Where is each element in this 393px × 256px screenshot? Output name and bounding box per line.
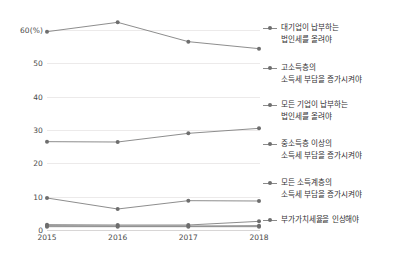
legend-label: 대기업이 납부하는	[281, 22, 339, 34]
data-point	[116, 140, 120, 144]
data-point	[45, 30, 49, 34]
legend-label-line2: 소득세 부담을 증가시켜야	[281, 74, 393, 86]
data-point	[45, 140, 49, 144]
legend-label-line2: 법인세를 올려야	[281, 111, 393, 123]
data-point	[257, 126, 261, 130]
data-point	[186, 40, 190, 44]
data-point	[186, 225, 190, 229]
series-line	[47, 22, 259, 48]
y-tick-label-60: 60(%)	[0, 26, 43, 35]
legend-marker-icon	[263, 216, 277, 225]
x-tick-label-2016: 2016	[108, 233, 127, 242]
x-axis-line	[47, 230, 260, 231]
series-4	[45, 224, 261, 228]
legend-item-2[interactable]: 모든 기업이 납부하는법인세를 올려야	[263, 99, 393, 123]
data-point	[116, 225, 120, 229]
legend-label: 고소득층의	[281, 62, 316, 74]
plot-area	[47, 30, 260, 230]
line-chart: 0102030405060(%) 2015201620172018 대기업이 납…	[0, 0, 393, 256]
y-tick-label-40: 40	[0, 92, 43, 101]
data-point	[45, 225, 49, 229]
legend-marker-icon	[263, 179, 277, 188]
legend-label: 중소득층 이상의	[281, 138, 332, 150]
legend-label: 모든 기업이 납부하는	[281, 99, 348, 111]
y-axis-tick-labels: 0102030405060(%)	[0, 30, 43, 230]
x-tick-label-2015: 2015	[37, 233, 56, 242]
data-point	[116, 207, 120, 211]
data-point	[186, 131, 190, 135]
legend-marker-icon	[263, 24, 277, 33]
legend-marker-icon	[263, 101, 277, 110]
y-tick-label-50: 50	[0, 59, 43, 68]
series-line	[47, 128, 259, 142]
data-point	[257, 225, 261, 229]
y-tick-label-30: 30	[0, 126, 43, 135]
legend-label-line2: 법인세를 올려야	[281, 34, 393, 46]
data-point	[257, 199, 261, 203]
x-tick-label-2017: 2017	[179, 233, 198, 242]
y-tick-label-20: 20	[0, 159, 43, 168]
legend-item-3[interactable]: 중소득층 이상의소득세 부담을 증가시켜야	[263, 138, 393, 162]
series-0	[45, 20, 261, 50]
legend-label-line2: 소득세 부담을 증가시켜야	[281, 150, 393, 162]
legend-label-line2: 소득세 부담을 증가시켜야	[281, 189, 393, 201]
data-point	[45, 196, 49, 200]
legend-marker-icon	[263, 140, 277, 149]
legend-item-1[interactable]: 고소득층의소득세 부담을 증가시켜야	[263, 62, 393, 86]
x-axis-tick-labels: 2015201620172018	[47, 233, 260, 249]
data-point	[257, 219, 261, 223]
series-1	[45, 126, 261, 144]
series-layer	[47, 30, 260, 230]
legend-item-0[interactable]: 대기업이 납부하는법인세를 올려야	[263, 22, 393, 46]
y-tick-label-10: 10	[0, 192, 43, 201]
legend-label: 부가가치세율을 인상해야	[281, 214, 359, 226]
series-line	[47, 221, 259, 225]
series-line	[47, 198, 259, 209]
series-2	[45, 196, 261, 211]
data-point	[257, 47, 261, 51]
legend-label: 모든 소득계층의	[281, 177, 332, 189]
legend-item-4[interactable]: 모든 소득계층의소득세 부담을 증가시켜야	[263, 177, 393, 201]
data-point	[116, 20, 120, 24]
legend-marker-icon	[263, 64, 277, 73]
x-tick-label-2018: 2018	[249, 233, 268, 242]
legend-item-5[interactable]: 부가가치세율을 인상해야	[263, 214, 393, 226]
data-point	[186, 199, 190, 203]
